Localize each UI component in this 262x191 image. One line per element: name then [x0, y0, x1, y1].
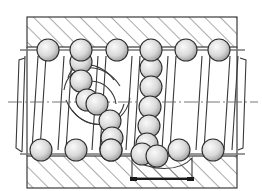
ball-icon [202, 139, 224, 161]
screw-shaft-threads [16, 56, 246, 152]
ball-screw-diagram [0, 0, 262, 191]
ball-icon [140, 76, 162, 98]
ball-icon [140, 39, 162, 61]
ball-icon [37, 39, 59, 61]
ball-icon [70, 39, 92, 61]
ball-icon [208, 39, 230, 61]
ball-icon [175, 39, 197, 61]
ball-icon [65, 139, 87, 161]
balls-group [30, 39, 230, 167]
ball-icon [30, 139, 52, 161]
nut-top-band [27, 17, 237, 47]
ball-screw-drawing [0, 0, 262, 191]
ball-icon [168, 139, 190, 161]
ball-icon [106, 39, 128, 61]
ball-icon [100, 139, 122, 161]
ball-icon [146, 145, 168, 167]
